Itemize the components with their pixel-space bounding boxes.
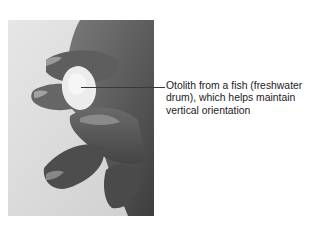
otolith-photo [8, 20, 154, 216]
otolith-caption: Otolith from a fish (freshwater drum), w… [166, 80, 316, 117]
caption-line-2: drum), which helps maintain [166, 92, 316, 104]
caption-line-1: Otolith from a fish (freshwater [166, 80, 316, 92]
callout-leader-line [81, 87, 165, 88]
caption-line-3: vertical orientation [166, 105, 316, 117]
